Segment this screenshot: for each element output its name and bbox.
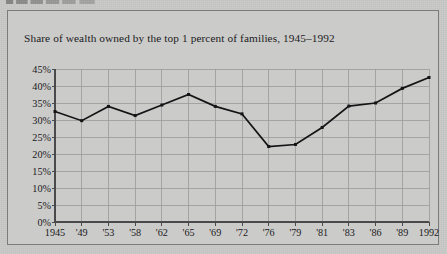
line-chart-svg	[55, 69, 429, 222]
y-axis-tick-label: 10%	[32, 183, 51, 194]
data-point-marker	[214, 105, 217, 108]
chart-title: Share of wealth owned by the top 1 perce…	[24, 32, 335, 44]
data-point-marker	[80, 119, 83, 122]
x-axis-tick-label: '49	[76, 227, 88, 238]
x-axis-tick-label: '79	[289, 227, 301, 238]
x-axis-tick-label: '76	[263, 227, 275, 238]
data-point-marker	[107, 105, 110, 108]
data-point-marker	[267, 145, 270, 148]
x-axis-tick-label: '58	[129, 227, 141, 238]
x-axis-tick-label: '86	[370, 227, 382, 238]
data-point-marker	[54, 110, 57, 113]
x-axis-tick-label: '65	[183, 227, 195, 238]
x-axis-tick-label: '72	[236, 227, 248, 238]
y-axis-tick-label: 15%	[32, 166, 51, 177]
y-axis-tick-label: 45%	[32, 64, 51, 75]
x-axis-tick-label: 1992	[419, 227, 439, 238]
y-axis-tick-label: 0%	[37, 217, 51, 228]
x-axis-tick-label: '53	[102, 227, 114, 238]
data-point-marker	[160, 104, 163, 107]
data-point-marker	[294, 143, 297, 146]
x-axis-tick-label: 1945	[45, 227, 65, 238]
x-axis-tick-label: '69	[209, 227, 221, 238]
scan-text-fragment	[6, 0, 102, 4]
x-axis-tick-label: '83	[343, 227, 355, 238]
vertical-gridlines	[55, 69, 429, 222]
y-axis-tick-label: 40%	[32, 81, 51, 92]
y-axis-tick-label: 20%	[32, 149, 51, 160]
data-point-marker	[241, 112, 244, 115]
y-axis-tick-label: 5%	[37, 200, 51, 211]
plot-area	[55, 69, 429, 222]
data-point-marker	[187, 93, 190, 96]
data-point-marker	[134, 114, 137, 117]
data-point-marker	[321, 126, 324, 129]
x-axis-tick-label: '81	[316, 227, 328, 238]
data-point-marker	[428, 76, 431, 79]
y-axis-tick-label: 25%	[32, 132, 51, 143]
data-point-marker	[347, 105, 350, 108]
x-axis-tick-label: '62	[156, 227, 168, 238]
y-axis-tick-labels: 0%5%10%15%20%25%30%35%40%45%	[20, 69, 51, 222]
y-axis-tick-label: 35%	[32, 98, 51, 109]
data-point-marker	[374, 102, 377, 105]
x-axis-tick-label: '89	[396, 227, 408, 238]
x-axis-tick-labels: 1945'49'53'58'62'65'69'72'76'79'81'83'86…	[55, 227, 429, 243]
figure-frame: Share of wealth owned by the top 1 perce…	[7, 10, 439, 245]
y-axis-tick-label: 30%	[32, 115, 51, 126]
data-point-marker	[401, 87, 404, 90]
